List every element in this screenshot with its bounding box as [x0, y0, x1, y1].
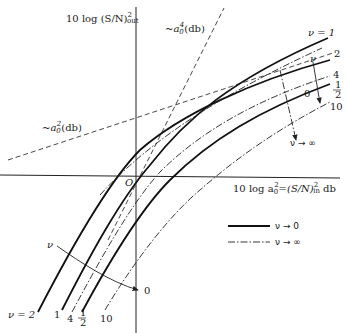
- curve-nu-10: [105, 102, 330, 310]
- label-nu-10-top: 10: [330, 101, 343, 112]
- nu-arrow-top: [313, 62, 320, 103]
- label-nu-2-bottom: ν = 2: [8, 309, 35, 320]
- label-nu-2-top: 2: [334, 48, 340, 59]
- label-nu-arrow-bottom: ν: [47, 239, 53, 250]
- label-nu-10-bottom: 10: [100, 313, 113, 324]
- snr-diagram: 10 log (S/N)2out ~a04(db) ~a02(db) O 10 …: [0, 0, 346, 333]
- diagram-canvas: 10 log (S/N)2out ~a04(db) ~a02(db) O 10 …: [0, 0, 346, 333]
- label-nu-0-top: 0: [304, 88, 310, 99]
- nu-infinity-arrow: [280, 70, 296, 140]
- legend: ν → 0 ν → ∞: [228, 221, 301, 247]
- label-nu-half-den-bottom: 2: [80, 317, 86, 328]
- x-axis: [0, 175, 340, 178]
- label-nu-0-bottom: 0: [144, 285, 150, 296]
- asymptote-a4-label: ~a04(db): [165, 21, 205, 36]
- curve-nu-1: [62, 38, 328, 310]
- label-nu-half-den-top: 2: [335, 89, 341, 100]
- legend-label-solid: ν → 0: [275, 221, 299, 231]
- origin-label: O: [125, 177, 133, 188]
- curve-upper-dashdot: [100, 48, 322, 195]
- curve-nu-half: [82, 84, 330, 312]
- asymptote-a0-fourth: [108, 8, 224, 240]
- label-nu-1-top: ν = 1: [308, 27, 335, 38]
- asymptote-a2-label: ~a02(db): [42, 120, 82, 135]
- label-nu-infinity: ν → ∞: [290, 138, 316, 148]
- label-nu-1-bottom: 1: [54, 309, 60, 320]
- legend-label-dashdot: ν → ∞: [275, 237, 301, 247]
- label-nu-arrow-top: ν: [310, 53, 316, 64]
- x-axis-label: 10 log a02=(S/N)2indb: [233, 181, 336, 196]
- asymptote-a0-squared: [8, 52, 336, 160]
- y-axis-label: 10 log (S/N)2out: [66, 11, 139, 25]
- label-nu-4-bottom: 4: [67, 313, 73, 324]
